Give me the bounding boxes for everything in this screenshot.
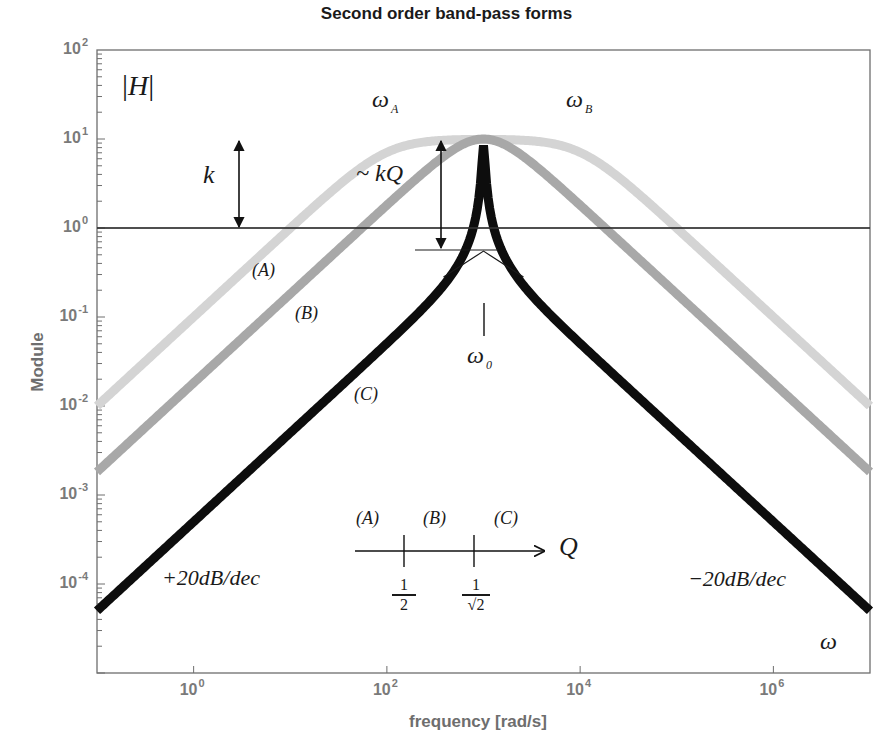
x-tick-label: 100 [180,677,205,699]
q-region-b: (B) [423,508,446,529]
x-tick-label: 104 [566,677,591,699]
y-tick-label: 10-3 [30,481,88,503]
omega-b-label: ωB [566,86,592,117]
k-label: k [203,160,215,190]
x-tick-label: 102 [373,677,398,699]
q-region-c: (C) [494,508,518,529]
curve-c-label: (C) [354,384,378,405]
curve-a-label: (A) [252,260,275,281]
q-axis-label: Q [559,532,578,562]
curve-c [97,145,870,611]
q-tick-half: 12 [392,576,416,614]
y-tick-label: 100 [30,214,88,236]
omega-a-label: ωA [372,86,398,117]
y-axis-label: Module [28,322,48,402]
chart-title: Second order band-pass forms [0,4,893,24]
y-tick-label: 101 [30,125,88,147]
q-region-a: (A) [356,508,379,529]
kq-label: ~ kQ [356,160,403,187]
curve-b-label: (B) [295,303,318,324]
slope-up-label: +20dB/dec [162,565,260,591]
y-tick-label: 10-2 [30,392,88,414]
y-tick-label: 10-1 [30,303,88,325]
y-tick-label: 102 [30,36,88,58]
omega-0-label: ω0 [467,342,492,373]
bode-plot [0,0,893,756]
curves [97,139,870,611]
q-tick-inv-sqrt2: 1√2 [462,576,490,614]
y-tick-label: 10-4 [30,570,88,592]
h-magnitude-label: |H| [122,68,154,102]
slope-down-label: −20dB/dec [688,566,786,592]
omega-label: ω [820,628,837,655]
x-tick-label: 106 [759,677,784,699]
x-axis-label: frequency [rad/s] [228,712,728,732]
